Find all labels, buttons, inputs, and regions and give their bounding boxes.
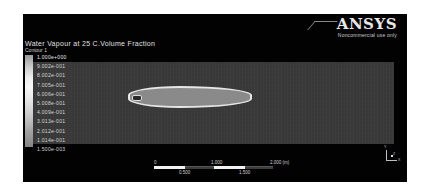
ansys-logo: ANSYS Noncommercial use only [311, 16, 397, 38]
triad-z-label: Z [393, 152, 395, 156]
axis-triad-icon: Y X Z [383, 148, 403, 166]
legend-label: 7.005e-001 [37, 81, 97, 90]
scale-label-2: 2.000 (m) [270, 160, 289, 165]
viewport[interactable]: ANSYS Noncommercial use only Water Vapou… [23, 14, 407, 182]
legend-label: 1.500e-003 [37, 145, 97, 154]
logo-brand: ANSYS [337, 15, 397, 33]
scale-segment [154, 166, 185, 169]
triad-y-label: Y [384, 145, 386, 149]
legend-label: 6.006e-001 [37, 90, 97, 99]
scale-segment [185, 166, 214, 169]
legend-label: 8.002e-001 [37, 71, 97, 80]
triad-x-label: X [398, 158, 400, 162]
legend-label: 3.013e-001 [37, 117, 97, 126]
logo-swoosh-icon [307, 21, 338, 30]
legend-label: 1.014e-001 [37, 136, 97, 145]
scale-label-0: 0 [154, 160, 157, 165]
vapour-contour-shape [128, 86, 252, 108]
contour-notch [132, 95, 142, 101]
legend-label: 5.008e-001 [37, 99, 97, 108]
legend-label: 1.000e+000 [37, 53, 97, 62]
scale-label-half: 0.500 [179, 170, 190, 175]
legend-label: 4.009e-001 [37, 108, 97, 117]
legend-label: 2.012e-001 [37, 127, 97, 136]
logo-subtitle: Noncommercial use only [311, 32, 397, 38]
scale-segment [214, 166, 245, 169]
color-legend-bar [25, 55, 33, 147]
legend-label: 9.002e-001 [37, 62, 97, 71]
scale-label-one-half: 1.500 [239, 170, 250, 175]
plot-title: Water Vapour at 25 C.Volume Fraction [25, 40, 155, 47]
scale-label-1: 1.000 [211, 160, 222, 165]
scale-segment [245, 166, 273, 169]
scale-bar: 0 1.000 2.000 (m) 0.500 1.500 [154, 160, 304, 178]
color-legend-labels: 1.000e+000 9.002e-001 8.002e-001 7.005e-… [37, 53, 97, 154]
